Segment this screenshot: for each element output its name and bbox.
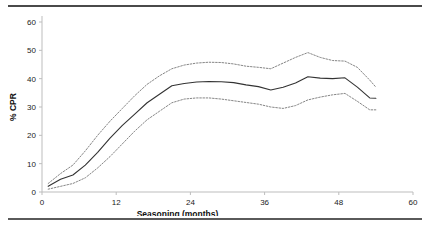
y-tick-label: 10 [27,160,36,169]
y-tick-label: 40 [27,75,36,84]
x-tick-label: 24 [186,198,195,207]
y-axis-title: % CPR [8,93,18,121]
x-axis-ticks: 01224364860 [40,192,418,207]
y-axis-group: 0102030405060 [27,16,42,197]
x-tick-label: 60 [409,198,418,207]
y-tick-label: 30 [27,103,36,112]
line-chart-svg: 0102030405060 01224364860 Seasoning (mon… [0,8,430,216]
y-axis-ticks: 0102030405060 [27,18,42,197]
figure-top-rule [8,5,422,7]
series-group [48,53,376,190]
y-tick-label: 0 [32,188,37,197]
clipped-caption-sliver [30,0,400,2]
chart-plot-area: 0102030405060 01224364860 Seasoning (mon… [0,8,430,216]
figure-container: 0102030405060 01224364860 Seasoning (mon… [0,0,430,230]
mean-series-path [48,77,376,187]
x-tick-label: 0 [40,198,45,207]
y-tick-label: 60 [27,18,36,27]
y-tick-label: 50 [27,46,36,55]
lower-confidence-band-path [48,93,376,189]
y-tick-label: 20 [27,131,36,140]
x-tick-label: 12 [112,198,121,207]
figure-bottom-rule [8,218,422,220]
x-axis-group: 01224364860 [40,192,418,207]
x-tick-label: 36 [260,198,269,207]
x-tick-label: 48 [334,198,343,207]
x-axis-title: Seasoning (months) [137,209,219,216]
upper-confidence-band-path [48,53,376,184]
